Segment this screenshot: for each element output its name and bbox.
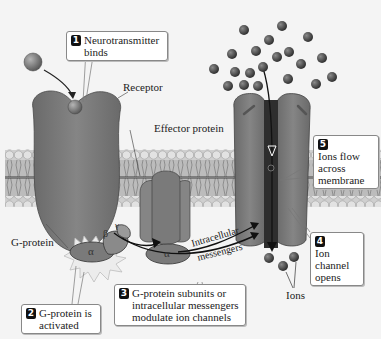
step-3-number: 3 <box>119 288 129 299</box>
step-2-callout: 2G-protein isactivated <box>21 304 101 334</box>
ions-label: Ions <box>286 289 305 301</box>
step-1-number: 1 <box>71 35 81 46</box>
bound-neurotransmitter <box>68 100 82 114</box>
diagram-canvas: Receptor Effector protein G-protein α β … <box>0 0 381 339</box>
step-4-callout: 4Ionchannelopens <box>310 232 364 286</box>
effector-alpha-label: α <box>164 247 170 259</box>
g-protein-label: G-protein <box>11 236 54 248</box>
step-4-number: 4 <box>315 236 325 247</box>
beta-label: β <box>103 228 108 239</box>
gamma-label: γ <box>115 220 119 230</box>
step-5-number: 5 <box>318 139 328 150</box>
step-1-callout: 1Neurotransmitterbinds <box>66 31 168 61</box>
receptor-label: Receptor <box>123 81 163 93</box>
intracellular-ions <box>264 252 299 271</box>
free-neurotransmitter <box>24 53 42 71</box>
step-5-callout: 5Ions flowacrossmembrane <box>313 135 379 189</box>
step-2-number: 2 <box>26 308 36 319</box>
alpha-label: α <box>88 245 94 257</box>
effector-protein-label: Effector protein <box>154 122 224 134</box>
extracellular-ions <box>209 21 337 91</box>
step-3-callout: 3G-protein subunits orintracellular mess… <box>114 284 246 326</box>
